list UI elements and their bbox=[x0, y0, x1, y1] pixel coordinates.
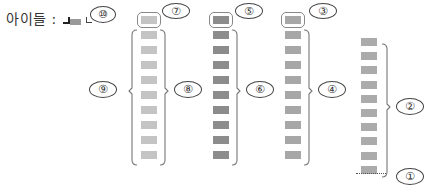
callout-7: ⑦ bbox=[162, 3, 190, 19]
callout-5: ⑤ bbox=[235, 3, 263, 19]
bracket-6 bbox=[232, 30, 240, 165]
brackets-layer bbox=[0, 0, 432, 194]
callout-1: ① bbox=[396, 168, 424, 185]
bracket-8 bbox=[160, 30, 168, 165]
bracket-2 bbox=[382, 44, 390, 177]
callout-8: ⑧ bbox=[174, 81, 202, 98]
bracket-9 bbox=[129, 30, 137, 165]
callout-2: ② bbox=[396, 98, 424, 115]
callout-9: ⑨ bbox=[89, 81, 117, 98]
callout-4: ④ bbox=[318, 81, 346, 98]
bracket-4 bbox=[304, 30, 312, 165]
callout-3: ③ bbox=[309, 3, 337, 19]
callout-6: ⑥ bbox=[246, 81, 274, 98]
cutoff-dotted-line bbox=[356, 173, 386, 174]
